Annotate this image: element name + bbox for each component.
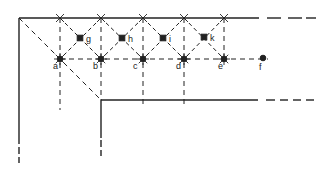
point-label-c: c	[133, 61, 138, 71]
point-label-h: h	[128, 34, 133, 44]
circle-point-c	[140, 56, 146, 62]
point-label-a: a	[53, 61, 58, 71]
square-point-g	[77, 35, 83, 41]
circle-point-a	[57, 56, 63, 62]
point-label-g: g	[86, 34, 91, 44]
circle-point-b	[98, 56, 104, 62]
square-point-k	[201, 34, 207, 40]
point-label-b: b	[93, 61, 98, 71]
point-label-f: f	[259, 62, 262, 72]
point-label-e: e	[218, 61, 223, 71]
square-point-h	[119, 35, 125, 41]
square-point-i	[160, 35, 166, 41]
circle-point-d	[181, 56, 187, 62]
circle-point-f	[260, 55, 266, 61]
point-label-d: d	[176, 61, 181, 71]
lattice-diagram: abcdefghik	[0, 0, 331, 173]
point-label-k: k	[210, 33, 215, 43]
point-label-i: i	[169, 34, 171, 44]
